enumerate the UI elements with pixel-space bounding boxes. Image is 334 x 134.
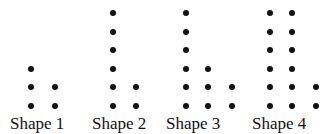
dot xyxy=(289,29,295,35)
dot xyxy=(267,47,273,53)
dot xyxy=(289,84,295,90)
dot xyxy=(110,29,116,35)
dot xyxy=(110,47,116,53)
dot xyxy=(205,103,211,109)
dot xyxy=(267,29,273,35)
dot xyxy=(183,84,189,90)
shape-label: Shape 4 xyxy=(252,114,306,134)
dot xyxy=(267,84,273,90)
dot xyxy=(267,10,273,16)
dot xyxy=(52,103,58,109)
shape-label: Shape 2 xyxy=(92,114,146,134)
dot xyxy=(110,66,116,72)
dot xyxy=(313,84,319,90)
dot xyxy=(229,103,235,109)
dot xyxy=(110,103,116,109)
dot xyxy=(133,84,139,90)
dot xyxy=(183,66,189,72)
dot xyxy=(267,66,273,72)
dot xyxy=(205,66,211,72)
dot xyxy=(313,103,319,109)
dot xyxy=(205,84,211,90)
dot xyxy=(183,47,189,53)
shape-label: Shape 3 xyxy=(166,114,220,134)
dot xyxy=(267,103,273,109)
dot xyxy=(28,66,34,72)
dot xyxy=(28,103,34,109)
dot xyxy=(133,103,139,109)
dot xyxy=(110,84,116,90)
dot xyxy=(110,10,116,16)
dot xyxy=(229,84,235,90)
dot xyxy=(289,103,295,109)
dot xyxy=(183,10,189,16)
dot xyxy=(289,66,295,72)
shape-label: Shape 1 xyxy=(10,114,64,134)
dot-pattern-figure: Shape 1 Shape 2 Shape 3 Shape 4 xyxy=(0,0,334,134)
dot xyxy=(183,103,189,109)
dot xyxy=(52,84,58,90)
dot xyxy=(28,84,34,90)
dot xyxy=(289,47,295,53)
dot xyxy=(289,10,295,16)
dot xyxy=(183,29,189,35)
